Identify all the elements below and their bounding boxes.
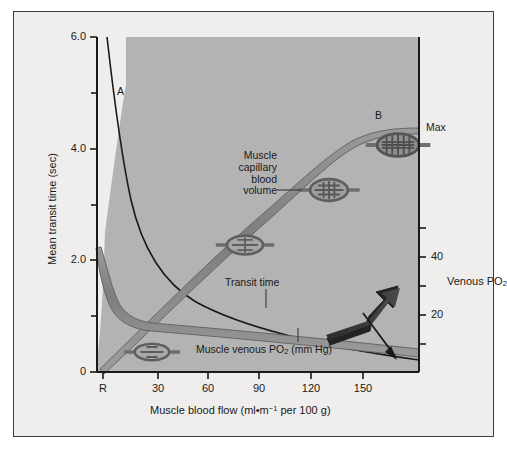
x-tick-label-120: 120 — [297, 382, 325, 394]
y-axis-right-ticks — [419, 228, 426, 344]
y-tick-label-2: 2.0 — [56, 253, 86, 265]
x-tick-label-60: 60 — [196, 382, 220, 394]
venous-po2-label-pre: Muscle venous PO — [196, 343, 284, 355]
y-axis-left-title: Mean transit time (sec) — [46, 153, 58, 265]
y-tick-label-0: 0 — [56, 365, 86, 377]
x-tick-label-30: 30 — [146, 382, 170, 394]
curve-label-b: B — [375, 110, 382, 122]
y-tick-label-6: 6.0 — [56, 30, 86, 42]
y-axis-left-ticks — [90, 37, 97, 372]
y-right-tick-label-20: 20 — [431, 308, 443, 320]
x-tick-label-150: 150 — [349, 382, 377, 394]
venous-po2-label-post: (mm Hg) — [288, 343, 332, 355]
y-tick-label-4: 4.0 — [56, 142, 86, 154]
x-axis-title-post: per 100 g) — [277, 404, 330, 416]
capillary-volume-label: Muscle capillary blood volume — [192, 150, 277, 197]
y-axis-right-title-pre: Venous PO — [447, 275, 503, 287]
x-tick-label-r: R — [95, 382, 111, 394]
y-right-tick-label-40: 40 — [431, 250, 443, 262]
transit-time-label: Transit time — [225, 277, 279, 289]
x-axis-ticks — [103, 372, 363, 379]
y-axis-right-title-sub: 2 — [503, 279, 507, 288]
capillary-volume-line-2: capillary — [238, 161, 277, 173]
capillary-volume-line-3: blood — [251, 173, 277, 185]
y-axis-right-title: Venous PO2 — [447, 275, 507, 289]
figure-container: 6.0 4.0 2.0 0 R 30 60 90 120 150 40 20 A… — [0, 0, 507, 449]
x-tick-label-90: 90 — [247, 382, 271, 394]
x-axis-title: Muscle blood flow (ml•m−1 per 100 g) — [150, 404, 331, 416]
capillary-volume-line-1: Muscle — [244, 149, 277, 161]
x-axis-title-pre: Muscle blood flow (ml•m — [150, 404, 269, 416]
venous-po2-label: Muscle venous PO2 (mm Hg) — [196, 344, 332, 357]
curve-label-a: A — [117, 86, 124, 98]
capillary-volume-line-4: volume — [243, 184, 277, 196]
max-label: Max — [426, 122, 446, 134]
